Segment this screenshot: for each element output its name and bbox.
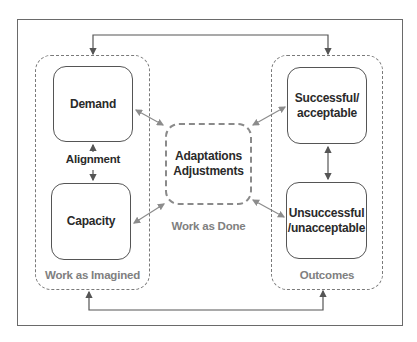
successful-line1: Successful/ bbox=[295, 91, 360, 105]
unsuccessful-label: Unsuccessful /unacceptable bbox=[288, 206, 365, 236]
capacity-node: Capacity bbox=[51, 183, 131, 260]
work-as-done-label: Work as Done bbox=[160, 220, 257, 232]
demand-label: Demand bbox=[70, 97, 116, 112]
outcomes-label: Outcomes bbox=[271, 269, 383, 281]
successful-node: Successful/ acceptable bbox=[287, 67, 367, 144]
top-feedback-arrow bbox=[93, 35, 328, 54]
unsuccessful-node: Unsuccessful /unacceptable bbox=[286, 182, 367, 259]
adaptations-line2: Adjustments bbox=[173, 164, 243, 178]
unsuccessful-line2: /unacceptable bbox=[288, 221, 365, 235]
unsuccessful-line1: Unsuccessful bbox=[289, 206, 365, 220]
alignment-label: Alignment bbox=[53, 153, 133, 165]
capacity-label: Capacity bbox=[67, 214, 115, 229]
successful-label: Successful/ acceptable bbox=[295, 91, 360, 121]
work-as-imagined-label: Work as Imagined bbox=[35, 269, 150, 281]
adaptations-node: Adaptations Adjustments bbox=[165, 123, 252, 205]
bottom-feedback-arrow bbox=[89, 291, 323, 310]
adaptations-label: Adaptations Adjustments bbox=[173, 149, 243, 179]
successful-line2: acceptable bbox=[297, 106, 357, 120]
adaptations-line1: Adaptations bbox=[175, 149, 242, 163]
demand-node: Demand bbox=[53, 66, 133, 142]
